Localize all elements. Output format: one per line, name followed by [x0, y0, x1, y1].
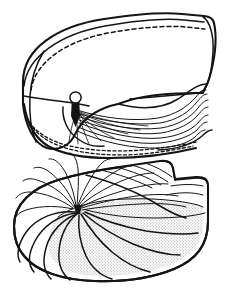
figure-lower-ventral-view: Lower figure: shell in oblique ventral v… — [0, 148, 227, 296]
upper-umbo-ring — [70, 92, 81, 103]
figure-upper-dorsal-view: Upper figure: outline shell in oblique d… — [0, 0, 227, 165]
figure-plate: Upper figure: outline shell in oblique d… — [0, 0, 227, 296]
upper-body-group — [23, 13, 215, 158]
lower-body-group — [14, 153, 208, 281]
upper-outer-outline — [23, 13, 215, 149]
